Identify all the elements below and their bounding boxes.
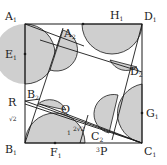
measure-p: 3 (96, 146, 100, 153)
label-d1: D1 (144, 10, 157, 23)
label-r: R (8, 96, 17, 109)
label-q: Q (61, 103, 70, 116)
label-g1: G1 (146, 107, 159, 120)
measure-r-b1: √2 (9, 115, 17, 122)
semicircle-right (117, 84, 142, 143)
measure-f1-q: 1 (67, 129, 71, 136)
semicircle-top (82, 24, 142, 54)
label-b2: B2 (27, 88, 39, 101)
label-d2: D2 (130, 65, 143, 78)
semicircle-left-shape (25, 24, 55, 84)
geometry-diagram: A1 D1 B1 C1 A2 D2 B2 C2 E1 F1 G1 H1 R Q … (0, 0, 167, 165)
label-a2: A2 (63, 27, 76, 40)
label-h1: H1 (110, 9, 123, 22)
point-e1 (24, 53, 27, 56)
point-h1 (82, 23, 85, 26)
label-b1: B1 (5, 143, 17, 156)
measure-q-c2: 2√2 (73, 125, 85, 132)
label-f1: F1 (50, 146, 61, 159)
label-c2: C2 (91, 130, 103, 143)
label-c1: C1 (144, 145, 156, 158)
point-g1 (141, 112, 144, 115)
label-a1: A1 (4, 10, 17, 23)
point-f1 (54, 142, 57, 145)
label-p: P (100, 145, 108, 158)
